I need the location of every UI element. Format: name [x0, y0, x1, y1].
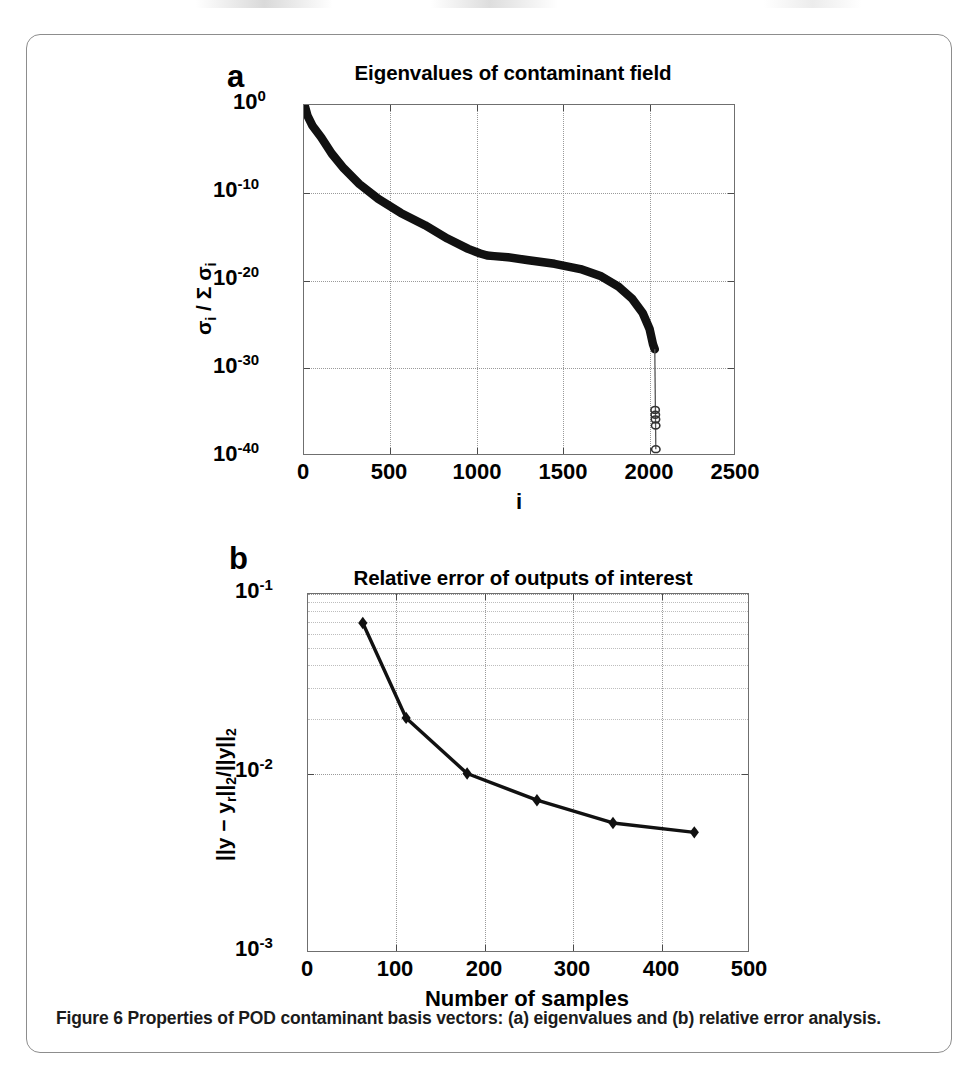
panel-b-xtick-5: 500: [719, 958, 779, 980]
panel-a-plot-area: [303, 104, 735, 455]
panel-a-title: Eigenvalues of contaminant field: [223, 63, 803, 84]
panel-b-xtick-4: 400: [631, 958, 691, 980]
caption-prefix: Figure 6 Properties of POD contaminant b…: [56, 1008, 508, 1028]
panel-a-xtick-4: 2000: [613, 461, 685, 483]
panel-b-xtick-0: 0: [287, 958, 327, 980]
panel-a-ytick-0: 100: [233, 91, 266, 113]
panel-b-error-curve: [308, 594, 749, 952]
panel-a-ytick-4: 10-40: [213, 443, 259, 465]
panel-b-ytick-2: 10-3: [235, 938, 273, 960]
panel-b-y-axis-label: ||y − yr||2/||y||2: [213, 728, 234, 861]
panel-a-x-axis-label: i: [479, 491, 559, 513]
panel-b-xtick-2: 200: [454, 958, 514, 980]
panel-a-xtick-3: 1500: [527, 461, 599, 483]
panel-b-plot-area: [307, 593, 749, 952]
figure-caption: Figure 6 Properties of POD contaminant b…: [56, 1008, 936, 1030]
panel-a-ytick-2: 10-20: [213, 267, 259, 289]
figure-frame: a Eigenvalues of contaminant field 100 1…: [26, 34, 952, 1053]
scan-artifact: [0, 0, 979, 8]
panel-b-ytick-0: 10-1: [235, 580, 273, 602]
caption-mid: eigenvalues and: [529, 1008, 672, 1028]
panel-a-eigenvalue-curve: [304, 105, 735, 455]
panel-a-xtick-0: 0: [283, 461, 323, 483]
caption-a-tag: (a): [508, 1008, 529, 1028]
panel-b-xtick-3: 300: [542, 958, 602, 980]
caption-suffix: relative error analysis.: [694, 1008, 881, 1028]
panel-b-title: Relative error of outputs of interest: [223, 568, 823, 589]
panel-b-x-axis-label: Number of samples: [397, 988, 657, 1010]
panel-b-ytick-1: 10-2: [235, 759, 273, 781]
panel-a-ytick-3: 10-30: [213, 355, 259, 377]
panel-a-ytick-1: 10-10: [213, 179, 259, 201]
panel-a-xtick-1: 500: [359, 461, 419, 483]
panel-a-xtick-2: 1000: [441, 461, 513, 483]
panel-a-y-axis-label: σi / Σ σi: [193, 263, 214, 335]
panel-b-xtick-1: 100: [365, 958, 425, 980]
caption-b-tag: (b): [672, 1008, 694, 1028]
panel-a-xtick-5: 2500: [699, 461, 771, 483]
